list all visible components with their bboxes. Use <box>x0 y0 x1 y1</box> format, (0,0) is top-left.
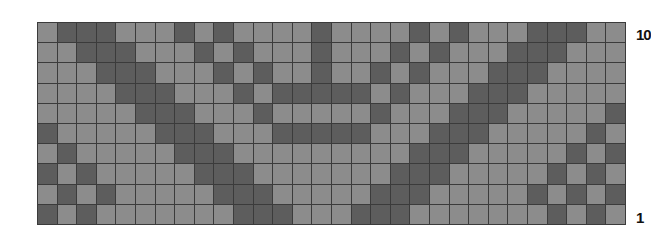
chart-cell <box>77 104 96 123</box>
chart-cell <box>587 205 606 224</box>
chart-cell <box>58 144 77 163</box>
chart-cell <box>508 144 527 163</box>
chart-cell <box>97 144 116 163</box>
chart-cell <box>254 23 273 42</box>
chart-cell <box>450 23 469 42</box>
chart-cell <box>489 23 508 42</box>
chart-cell <box>352 144 371 163</box>
chart-cell <box>469 185 488 204</box>
chart-cell <box>136 205 155 224</box>
chart-cell <box>332 164 351 183</box>
chart-cell <box>116 124 135 143</box>
chart-cell <box>410 205 429 224</box>
chart-cell <box>195 43 214 62</box>
chart-cell <box>214 185 233 204</box>
chart-cell <box>175 43 194 62</box>
chart-cell <box>234 205 253 224</box>
chart-cell <box>77 205 96 224</box>
chart-cell <box>273 164 292 183</box>
chart-cell <box>156 63 175 82</box>
chart-cell <box>528 144 547 163</box>
chart-cell <box>391 144 410 163</box>
chart-cell <box>293 185 312 204</box>
chart-cell <box>234 164 253 183</box>
chart-cell <box>195 164 214 183</box>
chart-cell <box>430 43 449 62</box>
chart-cell <box>332 43 351 62</box>
chart-cell <box>548 104 567 123</box>
chart-cell <box>312 23 331 42</box>
chart-cell <box>528 185 547 204</box>
chart-cell <box>38 185 57 204</box>
chart-cell <box>97 104 116 123</box>
chart-cell <box>234 144 253 163</box>
chart-cell <box>58 43 77 62</box>
chart-cell <box>430 104 449 123</box>
chart-cell <box>430 124 449 143</box>
chart-cell <box>156 144 175 163</box>
chart-cell <box>97 43 116 62</box>
chart-cell <box>371 185 390 204</box>
chart-cell <box>587 185 606 204</box>
chart-cell <box>234 43 253 62</box>
chart-cell <box>97 124 116 143</box>
chart-cell <box>97 63 116 82</box>
chart-cell <box>273 63 292 82</box>
chart-cell <box>391 63 410 82</box>
chart-cell <box>469 124 488 143</box>
chart-cell <box>450 63 469 82</box>
chart-cell <box>489 84 508 103</box>
chart-cell <box>410 185 429 204</box>
chart-cell <box>606 124 625 143</box>
chart-cell <box>528 63 547 82</box>
chart-cell <box>195 63 214 82</box>
chart-cell <box>469 164 488 183</box>
chart-cell <box>38 144 57 163</box>
chart-cell <box>489 185 508 204</box>
chart-cell <box>332 23 351 42</box>
chart-cell <box>273 43 292 62</box>
chart-cell <box>156 84 175 103</box>
chart-cell <box>97 164 116 183</box>
chart-cell <box>214 124 233 143</box>
chart-cell <box>489 144 508 163</box>
chart-cell <box>371 84 390 103</box>
chart-cell <box>567 164 586 183</box>
chart-cell <box>430 63 449 82</box>
chart-cell <box>116 84 135 103</box>
chart-cell <box>58 63 77 82</box>
chart-cell <box>548 84 567 103</box>
chart-cell <box>77 164 96 183</box>
chart-cell <box>312 164 331 183</box>
chart-cell <box>410 144 429 163</box>
chart-cell <box>254 104 273 123</box>
chart-cell <box>567 144 586 163</box>
chart-cell <box>38 23 57 42</box>
chart-cell <box>508 164 527 183</box>
chart-cell <box>273 84 292 103</box>
chart-cell <box>136 144 155 163</box>
chart-cell <box>450 84 469 103</box>
chart-cell <box>175 63 194 82</box>
chart-cell <box>606 63 625 82</box>
chart-cell <box>371 43 390 62</box>
chart-cell <box>567 124 586 143</box>
chart-cell <box>548 164 567 183</box>
chart-cell <box>38 43 57 62</box>
chart-cell <box>58 164 77 183</box>
chart-cell <box>508 63 527 82</box>
chart-cell <box>234 84 253 103</box>
chart-cell <box>332 63 351 82</box>
chart-cell <box>195 205 214 224</box>
chart-cell <box>489 164 508 183</box>
chart-cell <box>528 84 547 103</box>
chart-cell <box>548 43 567 62</box>
chart-cell <box>567 205 586 224</box>
chart-cell <box>410 43 429 62</box>
chart-cell <box>136 185 155 204</box>
chart-cell <box>528 205 547 224</box>
chart-cell <box>175 23 194 42</box>
chart-cell <box>38 205 57 224</box>
chart-cell <box>214 164 233 183</box>
chart-cell <box>587 43 606 62</box>
